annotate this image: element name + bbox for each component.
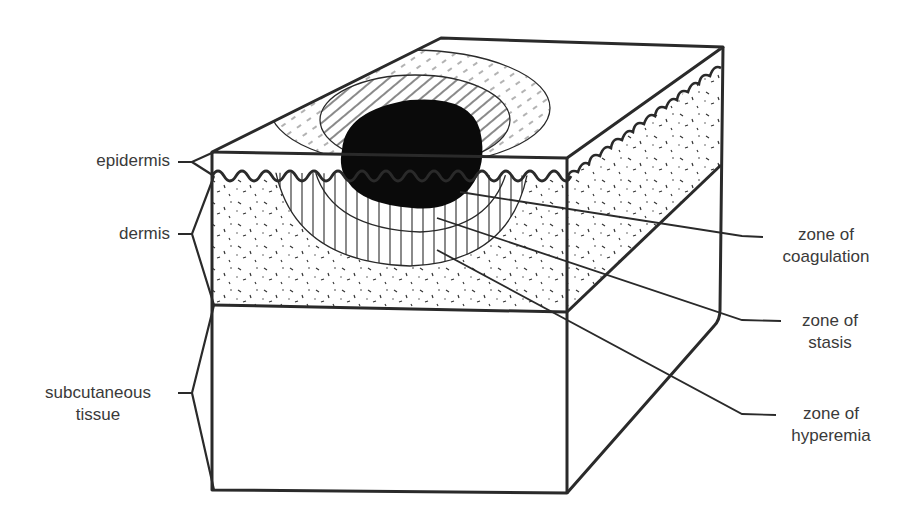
- epidermis-label: epidermis: [60, 150, 170, 172]
- stasis-label-line1: zone of: [780, 310, 880, 332]
- hyperemia-label-line2: hyperemia: [776, 425, 886, 447]
- coagulation-label-line2: coagulation: [764, 246, 888, 268]
- subcutaneous-label-line2: tissue: [28, 404, 168, 426]
- dermis-bracket: [178, 176, 214, 305]
- dermis-label: dermis: [60, 223, 170, 245]
- subcutaneous-label: subcutaneous tissue: [28, 382, 168, 426]
- layer-brackets: [178, 152, 214, 490]
- subcutaneous-bracket: [178, 305, 214, 490]
- stasis-label: zone of stasis: [780, 310, 880, 354]
- epidermis-bracket: [178, 152, 214, 176]
- coagulation-label: zone of coagulation: [764, 224, 888, 268]
- hyperemia-label-line1: zone of: [776, 403, 886, 425]
- stasis-label-line2: stasis: [780, 332, 880, 354]
- coagulation-label-line1: zone of: [764, 224, 888, 246]
- hyperemia-label: zone of hyperemia: [776, 403, 886, 447]
- subcutaneous-label-line1: subcutaneous: [28, 382, 168, 404]
